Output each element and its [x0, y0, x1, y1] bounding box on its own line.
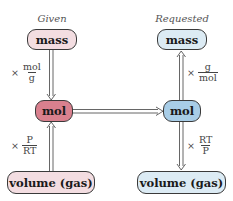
numerator: RT [198, 135, 213, 145]
arrow-requested-mol-to-mass [177, 51, 186, 100]
given-header: Given [12, 13, 92, 24]
requested-volume-box: volume (gas) [137, 171, 226, 194]
times-symbol: × [187, 67, 195, 78]
fraction: mol g [22, 62, 42, 83]
requested-mol-box: mol [163, 100, 201, 122]
denominator: P [201, 145, 209, 156]
arrow-given-mass-to-mol [47, 50, 56, 100]
requested-header: Requested [142, 13, 222, 24]
numerator: mol [22, 62, 42, 72]
given-volume-box: volume (gas) [7, 171, 95, 194]
requested-mass-box: mass [157, 29, 207, 50]
times-symbol: × [187, 140, 195, 151]
denominator: mol [198, 72, 218, 83]
given-mass-box: mass [27, 29, 77, 50]
fraction: g mol [198, 62, 218, 83]
times-symbol: × [11, 140, 19, 151]
numerator: g [204, 62, 212, 72]
denominator: RT [22, 145, 37, 156]
factor-mol-to-mass: × g mol [187, 62, 218, 83]
arrow-mol-to-mol [72, 107, 163, 116]
fraction: P RT [22, 135, 37, 156]
denominator: g [28, 72, 36, 83]
arrow-requested-mol-to-volume [177, 122, 186, 170]
fraction: RT P [198, 135, 213, 156]
factor-volume-to-mol: × P RT [11, 135, 37, 156]
numerator: P [25, 135, 33, 145]
factor-mass-to-mol: × mol g [11, 62, 42, 83]
arrow-given-volume-to-mol [47, 122, 56, 171]
given-mol-box: mol [35, 100, 73, 122]
times-symbol: × [11, 67, 19, 78]
factor-mol-to-volume: × RT P [187, 135, 213, 156]
